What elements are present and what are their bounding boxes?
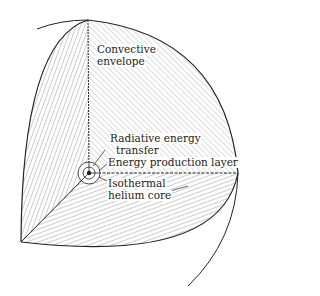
- label-isothermal-core-1: Isothermal: [107, 178, 167, 189]
- label-convective-envelope-1: Convective: [96, 44, 157, 55]
- label-radiative-energy-1: Radiative energy: [109, 133, 202, 144]
- label-energy-production-layer: Energy production layer: [107, 157, 239, 168]
- label-convective-envelope-2: envelope: [96, 56, 146, 67]
- label-isothermal-core-2: helium core: [107, 190, 172, 201]
- label-radiative-energy-2: transfer: [115, 145, 160, 156]
